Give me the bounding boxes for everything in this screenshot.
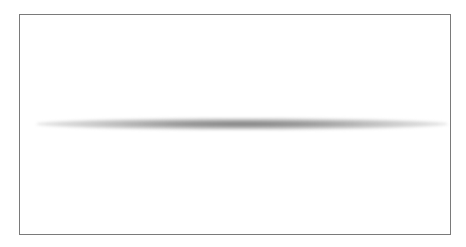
blurred-horizontal-streak [36, 118, 448, 130]
image-frame [19, 14, 451, 235]
